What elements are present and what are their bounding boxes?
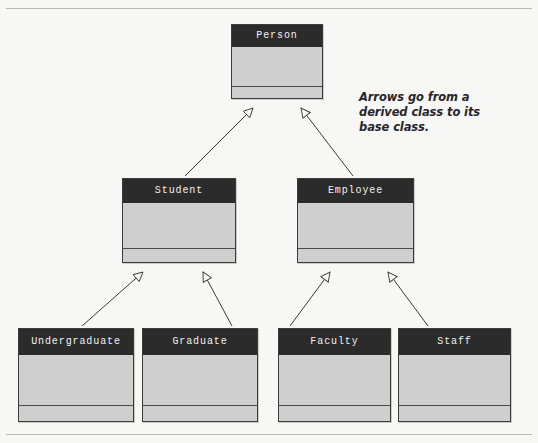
uml-class-undergraduate[interactable]: Undergraduate <box>18 328 134 422</box>
edge-faculty-to-employee <box>290 272 330 326</box>
uml-operations-compartment <box>279 406 390 422</box>
edge-student-to-person <box>185 108 253 176</box>
uml-class-name: Staff <box>399 329 510 355</box>
uml-operations-compartment <box>143 406 257 422</box>
uml-attributes-compartment <box>19 355 133 406</box>
uml-class-student[interactable]: Student <box>122 178 236 263</box>
annotation-line-1: Arrows go from a <box>359 90 519 105</box>
uml-attributes-compartment <box>143 355 257 406</box>
uml-class-name: Graduate <box>143 329 257 355</box>
uml-class-name: Student <box>123 179 235 203</box>
diagram-page: Person Student Employee Undergraduate Gr… <box>0 0 538 443</box>
uml-operations-compartment <box>399 406 510 422</box>
edge-undergraduate-to-student <box>82 272 143 326</box>
uml-class-name: Undergraduate <box>19 329 133 355</box>
uml-attributes-compartment <box>298 203 413 249</box>
uml-operations-compartment <box>19 406 133 422</box>
diagram-annotation: Arrows go from a derived class to its ba… <box>359 90 519 135</box>
uml-operations-compartment <box>298 249 413 263</box>
annotation-line-2: derived class to its <box>359 105 519 120</box>
edge-employee-to-person <box>301 108 353 176</box>
edge-staff-to-employee <box>388 272 428 326</box>
uml-attributes-compartment <box>123 203 235 249</box>
uml-class-name: Employee <box>298 179 413 203</box>
uml-class-person[interactable]: Person <box>231 24 323 99</box>
uml-class-staff[interactable]: Staff <box>398 328 511 422</box>
uml-class-faculty[interactable]: Faculty <box>278 328 391 422</box>
uml-attributes-compartment <box>232 47 322 87</box>
page-rule-bottom <box>6 434 532 435</box>
uml-attributes-compartment <box>279 355 390 406</box>
uml-class-name: Person <box>232 25 322 47</box>
uml-attributes-compartment <box>399 355 510 406</box>
uml-class-graduate[interactable]: Graduate <box>142 328 258 422</box>
page-rule-top <box>6 8 532 9</box>
uml-operations-compartment <box>232 87 322 99</box>
uml-class-employee[interactable]: Employee <box>297 178 414 263</box>
annotation-line-3: base class. <box>359 120 519 135</box>
edge-graduate-to-student <box>203 272 232 326</box>
uml-operations-compartment <box>123 249 235 263</box>
uml-class-name: Faculty <box>279 329 390 355</box>
